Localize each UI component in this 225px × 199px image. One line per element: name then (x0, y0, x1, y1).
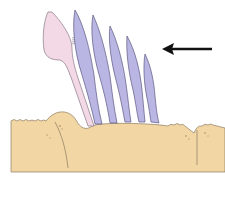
tissue-base (11, 112, 225, 172)
diagram-canvas (0, 0, 225, 199)
cell-diagram (0, 0, 225, 199)
arrow-left-icon (162, 43, 212, 55)
blue-cell-5 (144, 54, 159, 123)
